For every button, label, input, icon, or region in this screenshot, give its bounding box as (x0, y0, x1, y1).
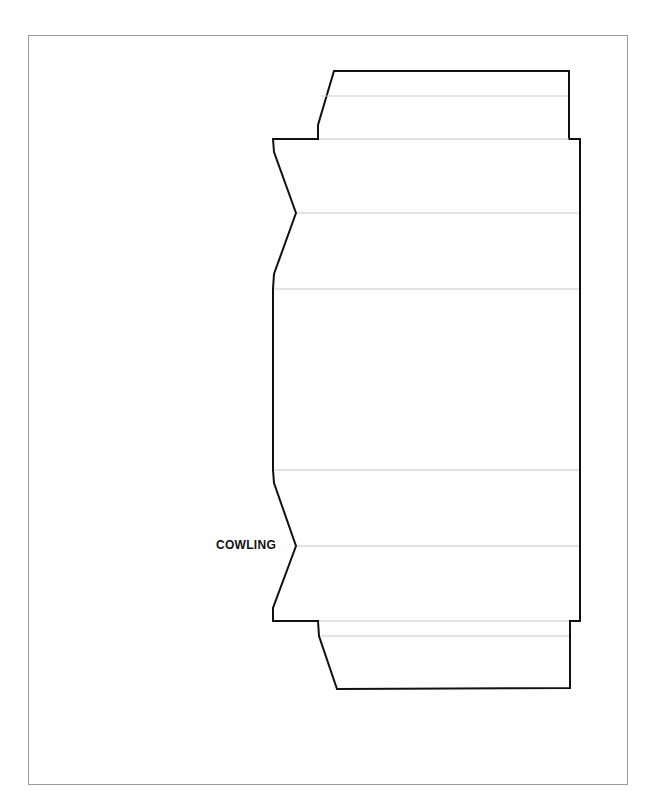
cowling-template (0, 0, 655, 800)
cowling-cut-outline (273, 71, 580, 689)
part-label-cowling: COWLING (216, 538, 276, 552)
